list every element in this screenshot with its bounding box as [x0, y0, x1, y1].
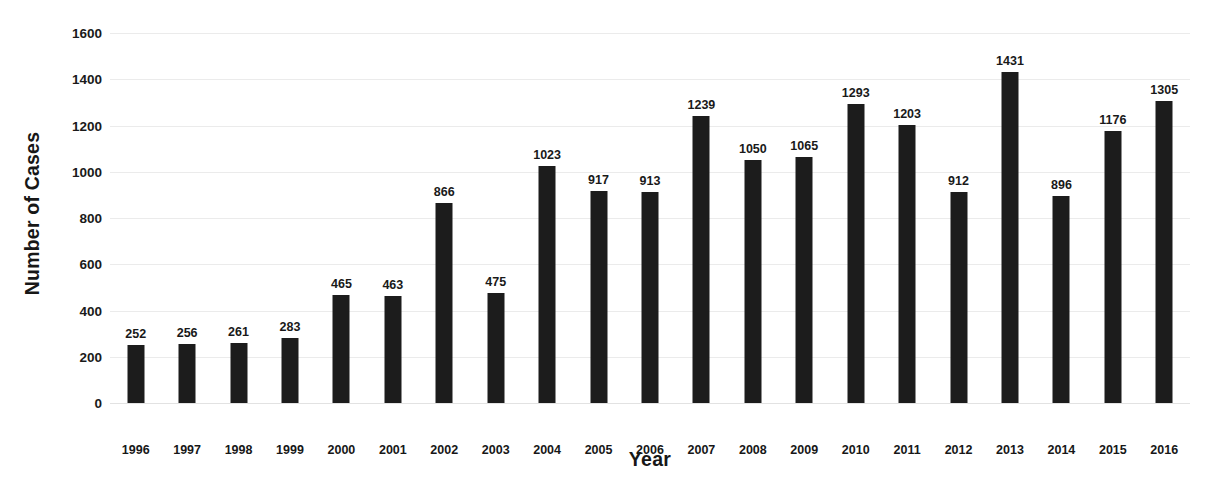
- y-tick-label: 1000: [72, 164, 102, 179]
- x-tick-slot: 2014: [1036, 33, 1087, 403]
- x-tick-label: 2006: [636, 443, 664, 457]
- gridline: [110, 403, 1190, 404]
- y-tick-label: 400: [79, 303, 102, 318]
- x-tick-slot: 2003: [470, 33, 521, 403]
- x-tick-slot: 2016: [1139, 33, 1190, 403]
- x-tick-slot: 2009: [779, 33, 830, 403]
- x-tick-label: 2014: [1048, 443, 1076, 457]
- x-tick-label: 2015: [1099, 443, 1127, 457]
- x-tick-label: 2002: [430, 443, 458, 457]
- x-tick-label: 2000: [328, 443, 356, 457]
- x-tick-label: 2004: [533, 443, 561, 457]
- x-tick-label: 2013: [996, 443, 1024, 457]
- chart-title-clipped: [0, 0, 1215, 3]
- x-tick-label: 1997: [173, 443, 201, 457]
- x-tick-label: 1998: [225, 443, 253, 457]
- x-tick-label: 2008: [739, 443, 767, 457]
- x-tick-slot: 2000: [316, 33, 367, 403]
- x-tick-slot: 2012: [933, 33, 984, 403]
- x-tick-slot: 1996: [110, 33, 161, 403]
- x-tick-label: 1996: [122, 443, 150, 457]
- x-tick-slot: 1997: [161, 33, 212, 403]
- x-tick-slot: 2007: [676, 33, 727, 403]
- x-tick-slot: 2001: [367, 33, 418, 403]
- x-axis-tick-labels: 1996199719981999200020012002200320042005…: [110, 33, 1190, 403]
- y-axis-tick-labels: 02004006008001000120014001600: [0, 0, 110, 493]
- x-tick-slot: 2010: [830, 33, 881, 403]
- x-tick-slot: 2008: [727, 33, 778, 403]
- y-tick-label: 800: [79, 211, 102, 226]
- x-tick-label: 2003: [482, 443, 510, 457]
- y-tick-label: 1400: [72, 72, 102, 87]
- x-tick-slot: 1998: [213, 33, 264, 403]
- y-tick-label: 1200: [72, 118, 102, 133]
- x-tick-slot: 2002: [419, 33, 470, 403]
- y-tick-label: 600: [79, 257, 102, 272]
- x-tick-slot: 2011: [881, 33, 932, 403]
- x-tick-label: 2005: [585, 443, 613, 457]
- x-tick-slot: 2006: [624, 33, 675, 403]
- x-tick-label: 2010: [842, 443, 870, 457]
- x-tick-slot: 2015: [1087, 33, 1138, 403]
- y-tick-label: 200: [79, 349, 102, 364]
- y-tick-label: 0: [94, 396, 102, 411]
- x-tick-slot: 2004: [521, 33, 572, 403]
- x-tick-slot: 1999: [264, 33, 315, 403]
- x-tick-slot: 2013: [984, 33, 1035, 403]
- bar-chart-figure: Number of Cases Year 0200400600800100012…: [0, 0, 1215, 493]
- x-tick-label: 2016: [1150, 443, 1178, 457]
- x-tick-label: 2012: [945, 443, 973, 457]
- x-tick-slot: 2005: [573, 33, 624, 403]
- x-tick-label: 2009: [790, 443, 818, 457]
- y-tick-label: 1600: [72, 26, 102, 41]
- x-tick-label: 1999: [276, 443, 304, 457]
- x-tick-label: 2001: [379, 443, 407, 457]
- x-tick-label: 2007: [688, 443, 716, 457]
- x-tick-label: 2011: [894, 443, 921, 457]
